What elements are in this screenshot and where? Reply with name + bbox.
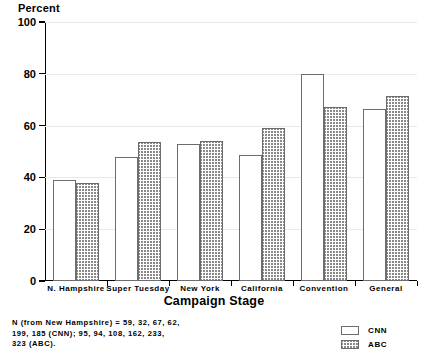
bar-cnn [115, 157, 138, 281]
legend-swatch-abc [341, 340, 359, 349]
footnote-line: N (from New Hampshire) = 59, 32, 67, 62, [12, 318, 252, 329]
y-axis-tick [39, 125, 45, 126]
bar-abc [138, 142, 161, 281]
bar-group [301, 22, 347, 281]
bar-abc [76, 183, 99, 281]
bar-group [115, 22, 161, 281]
y-axis-tick-label: 80 [24, 68, 36, 80]
chart-footnote: N (from New Hampshire) = 59, 32, 67, 62,… [12, 318, 252, 350]
bar-abc [324, 107, 347, 281]
x-axis-tick [293, 281, 294, 286]
plot-area: 020406080100 [45, 22, 417, 281]
x-axis-tick [231, 281, 232, 286]
bar-group [363, 22, 409, 281]
y-axis-tick [39, 21, 45, 22]
bar-abc [200, 141, 223, 281]
gridline [45, 177, 417, 178]
y-axis-tick [39, 229, 45, 230]
gridline [45, 22, 417, 23]
gridline [45, 74, 417, 75]
gridline [45, 229, 417, 230]
bar-cnn [177, 144, 200, 281]
x-axis-category-label: California [241, 284, 283, 293]
x-axis-category-label: Super Tuesday [106, 284, 169, 293]
y-axis-tick-label: 0 [30, 275, 36, 287]
bar-cnn [53, 180, 76, 281]
footnote-line: 199, 185 (CNN); 95, 94, 108, 162, 233, [12, 329, 252, 340]
y-axis-tick [39, 73, 45, 74]
x-axis-category-label: Convention [300, 284, 349, 293]
bar-group [177, 22, 223, 281]
bar-abc [386, 96, 409, 281]
legend-item: CNN [341, 323, 387, 337]
axis-frame [45, 22, 417, 281]
y-axis-tick [39, 280, 45, 281]
gridline [45, 126, 417, 127]
bar-group [53, 22, 99, 281]
legend-item: ABC [341, 337, 387, 351]
bar-group [239, 22, 285, 281]
y-axis-tick-label: 40 [24, 171, 36, 183]
y-axis-tick [39, 177, 45, 178]
x-axis-title: Campaign Stage [0, 294, 428, 308]
x-axis-category-label: General [369, 284, 402, 293]
y-axis-title: Percent [18, 2, 60, 14]
bar-abc [262, 128, 285, 281]
x-axis-category-label: New York [180, 284, 220, 293]
bar-cnn [239, 155, 262, 281]
x-axis-tick [355, 281, 356, 286]
legend-swatch-cnn [341, 326, 359, 335]
bar-cnn [363, 109, 386, 281]
y-axis-tick-label: 60 [24, 120, 36, 132]
legend-label-cnn: CNN [368, 326, 387, 335]
footnote-line: 323 (ABC). [12, 339, 252, 350]
y-axis-tick-label: 100 [18, 16, 36, 28]
legend-label-abc: ABC [368, 340, 387, 349]
x-axis-tick [417, 281, 418, 286]
x-axis-category-label: N. Hampshire [47, 284, 105, 293]
y-axis-tick-label: 20 [24, 223, 36, 235]
bar-cnn [301, 74, 324, 281]
chart-legend: CNNABC [341, 323, 387, 351]
